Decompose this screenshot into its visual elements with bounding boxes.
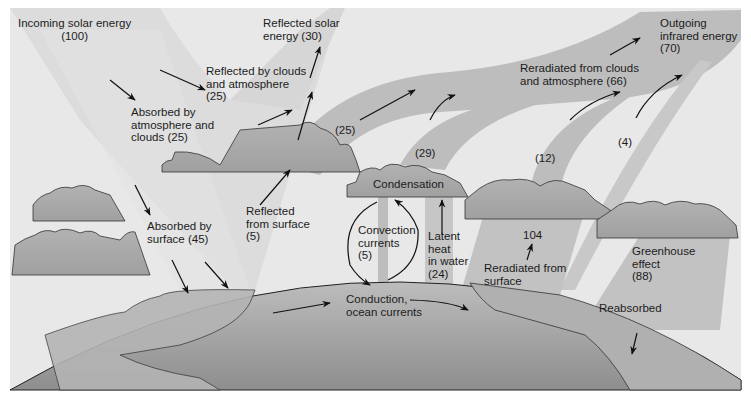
- label-value: (5): [246, 230, 310, 243]
- label-line: Reflected by clouds: [206, 65, 306, 78]
- label-line: heat: [428, 243, 468, 256]
- label-absorbed-surface: Absorbed by surface (45): [147, 220, 212, 245]
- label-reabsorbed: Reabsorbed: [599, 302, 662, 315]
- label-line: clouds (25): [131, 131, 214, 144]
- label-value: (100): [18, 30, 131, 43]
- label-conduction: Conduction, ocean currents: [346, 293, 422, 318]
- label-incoming-solar: Incoming solar energy (100): [18, 17, 131, 42]
- label-band-12: (12): [535, 152, 555, 165]
- label-reradiated-surface: Reradiated from surface: [484, 262, 566, 287]
- label-line: effect: [632, 258, 695, 271]
- label-value: (70): [660, 42, 737, 55]
- label-line: in water: [428, 255, 468, 268]
- label-convection-currents: Convection currents (5): [358, 224, 416, 262]
- label-latent-heat: Latent heat in water (24): [428, 230, 468, 280]
- label-line: infrared energy: [660, 30, 737, 43]
- energy-budget-diagram: Incoming solar energy (100) Reflected so…: [0, 0, 751, 399]
- label-value: (88): [632, 270, 695, 283]
- label-line: energy (30): [263, 30, 340, 43]
- label-absorbed-atmosphere: Absorbed by atmosphere and clouds (25): [131, 106, 214, 144]
- label-line: ocean currents: [346, 306, 422, 319]
- label-line: Reflected: [246, 205, 310, 218]
- label-line: Reradiated from: [484, 262, 566, 275]
- label-greenhouse-effect: Greenhouse effect (88): [632, 245, 695, 283]
- label-value-104: 104: [523, 229, 542, 242]
- label-value: (24): [428, 268, 468, 281]
- label-line: surface (45): [147, 233, 212, 246]
- label-line: and atmosphere: [206, 78, 306, 91]
- label-line: Incoming solar energy: [18, 17, 131, 30]
- label-value: (25): [206, 90, 306, 103]
- diagram-artwork: [0, 0, 751, 399]
- label-band-4: (4): [618, 136, 632, 149]
- label-line: surface: [484, 275, 566, 288]
- cloud-left-lower: [12, 229, 150, 275]
- label-reflected-clouds: Reflected by clouds and atmosphere (25): [206, 65, 306, 103]
- label-reradiated-clouds: Reradiated from clouds and atmosphere (6…: [520, 62, 639, 87]
- label-line: Convection: [358, 224, 416, 237]
- label-line: Reflected solar: [263, 17, 340, 30]
- label-outgoing-infrared: Outgoing infrared energy (70): [660, 17, 737, 55]
- label-line: and atmosphere (66): [520, 75, 639, 88]
- label-band-29: (29): [415, 147, 435, 160]
- label-value: (5): [358, 249, 416, 262]
- label-line: Conduction,: [346, 293, 422, 306]
- label-reflected-solar: Reflected solar energy (30): [263, 17, 340, 42]
- label-line: Absorbed by: [131, 106, 214, 119]
- label-line: Greenhouse: [632, 245, 695, 258]
- label-line: currents: [358, 237, 416, 250]
- label-line: atmosphere and: [131, 119, 214, 132]
- label-reflected-surface: Reflected from surface (5): [246, 205, 310, 243]
- label-band-25: (25): [335, 124, 355, 137]
- label-line: from surface: [246, 218, 310, 231]
- label-line: Reradiated from clouds: [520, 62, 639, 75]
- label-condensation: Condensation: [373, 178, 444, 191]
- label-line: Outgoing: [660, 17, 737, 30]
- label-line: Absorbed by: [147, 220, 212, 233]
- label-line: Latent: [428, 230, 468, 243]
